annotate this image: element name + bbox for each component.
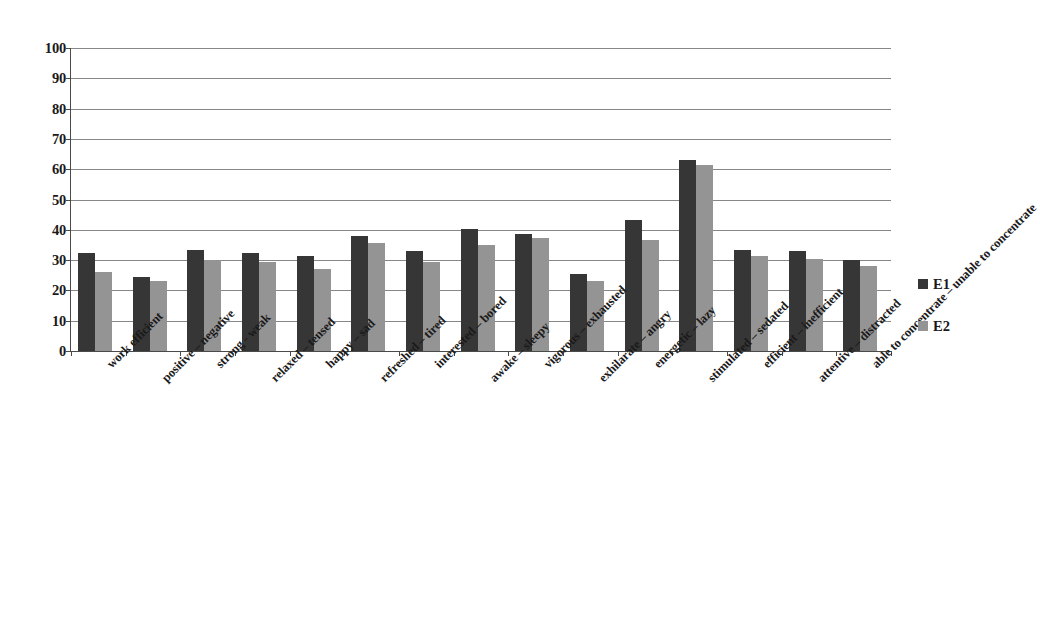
- bar-e2: [259, 262, 276, 351]
- bars-layer: [71, 48, 891, 351]
- bar-e1: [78, 253, 95, 351]
- y-tick-label: 0: [30, 344, 66, 359]
- x-tick-mark: [563, 351, 564, 356]
- bar-e2: [587, 281, 604, 351]
- y-tick-label: 70: [30, 132, 66, 147]
- legend-label: E1: [933, 277, 950, 292]
- x-tick-mark: [126, 351, 127, 356]
- bar-e1: [406, 251, 423, 351]
- x-tick-mark: [727, 351, 728, 356]
- bar-group: [344, 48, 399, 351]
- legend-swatch: [918, 279, 928, 289]
- bar-group: [399, 48, 454, 351]
- y-tick-label: 90: [30, 71, 66, 86]
- bar-e2: [314, 269, 331, 351]
- legend: E1E2: [918, 272, 978, 356]
- x-tick-mark: [782, 351, 783, 356]
- bar-group: [836, 48, 891, 351]
- bar-e1: [625, 220, 642, 351]
- y-tick-label: 40: [30, 223, 66, 238]
- x-tick-mark: [836, 351, 837, 356]
- y-tick-label: 80: [30, 101, 66, 116]
- bar-e2: [204, 260, 221, 351]
- bar-e1: [789, 251, 806, 351]
- x-tick-mark: [235, 351, 236, 356]
- bar-e1: [133, 277, 150, 351]
- bar-e2: [696, 165, 713, 351]
- bar-e2: [368, 243, 385, 351]
- bar-e2: [860, 266, 877, 351]
- legend-item-e1: E1: [918, 272, 978, 296]
- bar-e2: [751, 256, 768, 351]
- bar-e1: [187, 250, 204, 352]
- bar-group: [71, 48, 126, 351]
- legend-label: E2: [933, 319, 950, 334]
- bar-e1: [570, 274, 587, 351]
- bar-e1: [461, 229, 478, 351]
- y-axis-tick-labels: 1009080706050403020100: [30, 40, 66, 351]
- x-tick-mark: [180, 351, 181, 356]
- x-tick-mark: [672, 351, 673, 356]
- bar-group: [727, 48, 782, 351]
- legend-item-e2: E2: [918, 314, 978, 338]
- bar-e1: [515, 234, 532, 351]
- x-tick-mark: [454, 351, 455, 356]
- bar-e2: [150, 281, 167, 351]
- y-tick-label: 100: [30, 41, 66, 56]
- bar-e1: [734, 250, 751, 351]
- bar-group: [454, 48, 509, 351]
- x-tick-mark: [71, 351, 72, 356]
- bar-group: [180, 48, 235, 351]
- bar-e1: [242, 253, 259, 351]
- legend-swatch: [918, 321, 928, 331]
- x-tick-mark: [891, 351, 892, 356]
- bar-e2: [423, 262, 440, 351]
- bar-e1: [351, 236, 368, 351]
- x-tick-mark: [508, 351, 509, 356]
- bar-group: [290, 48, 345, 351]
- bar-group: [563, 48, 618, 351]
- y-tick-label: 30: [30, 253, 66, 268]
- bar-group: [672, 48, 727, 351]
- bar-group: [235, 48, 290, 351]
- bar-group: [618, 48, 673, 351]
- x-tick-mark: [344, 351, 345, 356]
- bar-group: [508, 48, 563, 351]
- bar-e2: [478, 245, 495, 351]
- bar-e1: [679, 160, 696, 351]
- y-tick-label: 60: [30, 162, 66, 177]
- bar-e2: [806, 259, 823, 351]
- x-tick-mark: [618, 351, 619, 356]
- y-tick-label: 10: [30, 313, 66, 328]
- plot-area: [70, 48, 891, 352]
- bar-e2: [95, 272, 112, 351]
- x-tick-mark: [399, 351, 400, 356]
- y-tick-label: 20: [30, 283, 66, 298]
- y-tick-label: 50: [30, 192, 66, 207]
- bar-e1: [843, 260, 860, 351]
- bar-group: [126, 48, 181, 351]
- bar-e1: [297, 256, 314, 351]
- bar-group: [782, 48, 837, 351]
- x-tick-mark: [290, 351, 291, 356]
- bar-e2: [642, 240, 659, 351]
- bar-e2: [532, 238, 549, 351]
